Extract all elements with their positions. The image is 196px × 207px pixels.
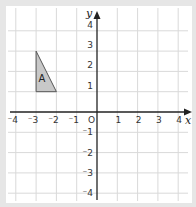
y-axis-label: y [85,7,93,20]
x-axis-label: x [185,114,192,127]
x-tick-label: 4 [176,115,182,125]
y-tick-label: 2 [87,60,93,70]
y-axis-arrow-icon [94,11,101,19]
x-tick-label: ⁻1 [68,115,78,125]
y-tick-label: 3 [87,40,93,50]
x-tick-label: ⁻4 [8,115,19,125]
y-tick-label: ⁻3 [83,168,93,178]
y-tick-label: ⁻2 [83,148,93,158]
y-tick-label: ⁻1 [83,127,93,137]
y-tick-label: 1 [87,81,93,91]
y-tick-label: 4 [87,20,93,30]
x-tick-label: ⁻3 [28,115,38,125]
axes [10,11,192,200]
origin-label: O [88,115,95,125]
tick-labels: ⁻4⁻3⁻2⁻112344321⁻1⁻2⁻3⁻4 [8,20,183,198]
shape-label: A [38,73,45,84]
coordinate-grid: A ⁻4⁻3⁻2⁻112344321⁻1⁻2⁻3⁻4 x y O [0,0,196,207]
y-tick-label: ⁻4 [83,188,94,198]
x-tick-label: ⁻2 [48,115,58,125]
x-tick-label: 1 [115,115,121,125]
x-tick-label: 2 [136,115,142,125]
x-tick-label: 3 [156,115,162,125]
grid-lines [8,8,188,201]
